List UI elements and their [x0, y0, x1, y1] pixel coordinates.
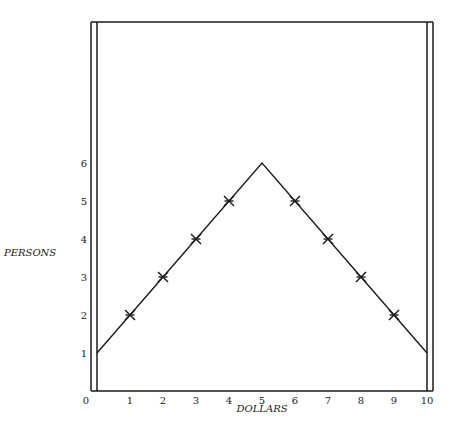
x-tick-label: 1 [127, 395, 133, 406]
y-tick-label: 4 [81, 234, 87, 245]
x-tick-label: 6 [292, 395, 298, 406]
data-point-marker [290, 196, 300, 206]
x-tick-label: 7 [325, 395, 331, 406]
x-tick-label: 3 [193, 395, 199, 406]
data-point-marker [389, 310, 399, 320]
x-tick-label: 0 [83, 395, 89, 406]
x-tick-label: 9 [391, 395, 397, 406]
series-line-group [97, 163, 427, 353]
y-tick-label: 1 [81, 348, 87, 359]
data-point-marker [224, 196, 234, 206]
plot-frame [91, 22, 433, 391]
x-tick-label: 10 [421, 395, 434, 406]
x-tick-label: 2 [160, 395, 166, 406]
data-point-marker [158, 272, 168, 282]
marker-group [125, 196, 399, 320]
data-point-marker [323, 234, 333, 244]
x-axis-label: DOLLARS [235, 403, 287, 414]
y-tick-label: 6 [81, 158, 87, 169]
data-point-marker [125, 310, 135, 320]
y-tick-label: 3 [81, 272, 87, 283]
x-tick-label: 4 [226, 395, 232, 406]
chart: 012345678910 123456 DOLLARS PERSONS [0, 0, 451, 431]
y-tick-label: 2 [81, 310, 87, 321]
y-tick-labels: 123456 [81, 158, 87, 359]
data-point-marker [191, 234, 201, 244]
y-tick-label: 5 [81, 196, 87, 207]
x-tick-label: 8 [358, 395, 364, 406]
data-point-marker [356, 272, 366, 282]
series-line-distribution [97, 163, 427, 353]
y-axis-label: PERSONS [3, 247, 56, 258]
